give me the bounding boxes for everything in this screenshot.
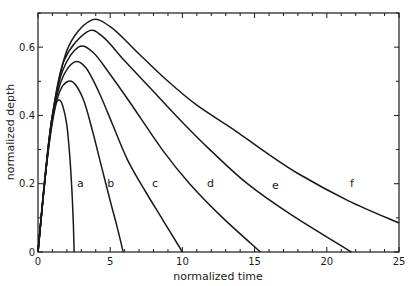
curve-d bbox=[38, 46, 260, 252]
x-tick-label: 5 bbox=[107, 256, 113, 267]
y-tick-label: 0.4 bbox=[19, 110, 35, 121]
curves bbox=[38, 19, 399, 252]
curve-a bbox=[38, 100, 74, 252]
curve-e bbox=[38, 30, 351, 252]
y-tick-label: 0.2 bbox=[19, 178, 35, 189]
x-tick-label: 25 bbox=[393, 256, 406, 267]
curve-label-b: b bbox=[107, 177, 114, 190]
x-axis-label: normalized time bbox=[173, 270, 263, 283]
y-axis-label: normalized depth bbox=[4, 84, 17, 181]
curve-label-e: e bbox=[272, 179, 279, 192]
x-tick-label: 20 bbox=[320, 256, 333, 267]
curve-labels: abcdef bbox=[77, 177, 355, 192]
curve-f bbox=[38, 19, 399, 252]
tick-labels: 051015202500.20.40.6 bbox=[19, 42, 405, 267]
curve-label-f: f bbox=[350, 177, 355, 190]
curve-label-c: c bbox=[152, 177, 158, 190]
x-tick-label: 0 bbox=[35, 256, 41, 267]
x-tick-label: 10 bbox=[176, 256, 189, 267]
chart: 051015202500.20.40.6 abcdef normalized t… bbox=[0, 0, 413, 286]
y-tick-label: 0.6 bbox=[19, 42, 35, 53]
curve-label-a: a bbox=[77, 177, 84, 190]
y-tick-label: 0 bbox=[29, 247, 35, 258]
curve-b bbox=[38, 81, 123, 252]
x-tick-label: 15 bbox=[248, 256, 261, 267]
curve-label-d: d bbox=[207, 177, 214, 190]
